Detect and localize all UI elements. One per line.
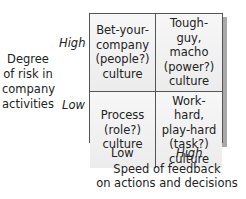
cell-bet-your-company: Bet-your- company (people?) culture <box>90 14 156 92</box>
x-axis-low-label: Low <box>111 146 134 160</box>
y-axis-low-label: Low <box>62 98 85 112</box>
x-axis-title: Speed of feedback on actions and decisio… <box>96 162 238 190</box>
culture-matrix: Bet-your- company (people?) culture Toug… <box>89 13 223 143</box>
x-axis-high-label: High <box>176 146 202 160</box>
y-axis-title: Degree of risk in company activities <box>2 52 54 112</box>
y-axis-high-label: High <box>59 36 85 50</box>
cell-tough-guy-macho: Tough-guy, macho (power?) culture <box>156 14 222 92</box>
